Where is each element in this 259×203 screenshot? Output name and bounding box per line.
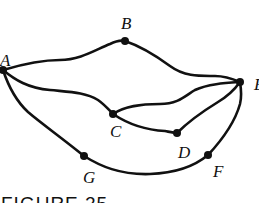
- graph-diagram: A B E C D F G FIGURE 25: [0, 0, 259, 203]
- vertex-d: [173, 129, 181, 137]
- vertex-label-c: C: [110, 122, 122, 141]
- vertex-label-d: D: [177, 143, 191, 162]
- vertex-label-b: B: [121, 14, 132, 33]
- vertex-label-g: G: [83, 168, 95, 187]
- vertex-b: [121, 37, 129, 45]
- vertex-e: [236, 78, 244, 86]
- vertex-c: [109, 110, 117, 118]
- edge-c-e: [113, 82, 240, 114]
- vertex-label-e: E: [253, 75, 259, 94]
- vertex-g: [80, 152, 88, 160]
- edge-a-g: [3, 70, 84, 156]
- edge-a-b: [3, 41, 125, 70]
- edge-b-e: [125, 41, 240, 82]
- vertex-label-a: A: [0, 51, 11, 70]
- edge-f-e: [208, 82, 241, 155]
- edge-a-c: [3, 70, 113, 114]
- vertex-label-f: F: [212, 162, 224, 181]
- vertex-f: [204, 151, 212, 159]
- edge-c-d: [113, 114, 177, 133]
- figure-caption: FIGURE 25: [1, 193, 108, 203]
